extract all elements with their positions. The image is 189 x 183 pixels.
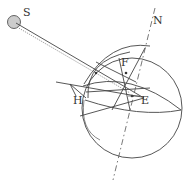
meridian-arc bbox=[83, 100, 100, 140]
horizon-line-2 bbox=[80, 98, 144, 116]
label-n: N bbox=[153, 14, 163, 27]
label-f: F bbox=[121, 56, 129, 69]
earth-sun-diagram: S N F H E bbox=[0, 0, 189, 183]
terminator-arc bbox=[84, 45, 150, 84]
point-f bbox=[125, 72, 128, 75]
point-inner bbox=[95, 72, 97, 74]
label-e: E bbox=[141, 94, 149, 107]
sun-ray-dotted bbox=[17, 27, 130, 93]
sun-circle bbox=[8, 16, 21, 29]
line-through-f bbox=[96, 62, 136, 82]
label-h: H bbox=[73, 94, 83, 107]
label-s: S bbox=[23, 6, 31, 19]
